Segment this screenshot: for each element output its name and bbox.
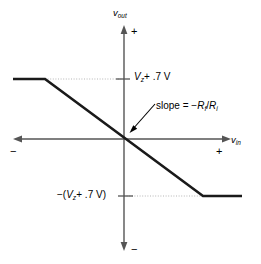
x-axis-positive-sign: + [216, 146, 222, 157]
upper-rail-var: V [134, 71, 141, 82]
upper-rail-tick-label: Vz+ .7 V [134, 72, 170, 84]
lower-rail-rest: + .7 V) [76, 189, 106, 200]
chart-canvas [0, 0, 261, 264]
x-axis-negative-sign: − [10, 146, 16, 157]
transfer-characteristic-figure: vout vin + − − + Vz+ .7 V −(Vz+ .7 V) sl… [0, 0, 261, 264]
y-axis-label-sub: out [118, 12, 127, 19]
slope-denominator-sub: i [216, 105, 218, 112]
slope-leader-line [132, 104, 155, 130]
y-axis-arrow-down [121, 242, 128, 251]
lower-rail-open: −( [57, 189, 66, 200]
lower-rail-var: V [66, 189, 73, 200]
x-axis-label: vin [231, 135, 241, 146]
x-axis-arrow-left [13, 136, 22, 143]
y-axis-arrow-up [121, 25, 128, 34]
slope-arrowhead-icon [130, 125, 138, 133]
y-axis-label: vout [113, 8, 127, 19]
slope-annotation-label: slope = −Rf/Ri [156, 101, 218, 113]
slope-prefix: slope = − [156, 100, 197, 111]
x-axis-arrow-right [222, 136, 231, 143]
lower-rail-tick-label: −(Vz+ .7 V) [57, 190, 106, 202]
y-axis-negative-sign: − [131, 244, 137, 255]
upper-rail-rest: + .7 V [144, 71, 170, 82]
transfer-characteristic-curve [13, 79, 242, 196]
y-axis-positive-sign: + [131, 26, 137, 37]
x-axis-label-sub: in [236, 139, 241, 146]
